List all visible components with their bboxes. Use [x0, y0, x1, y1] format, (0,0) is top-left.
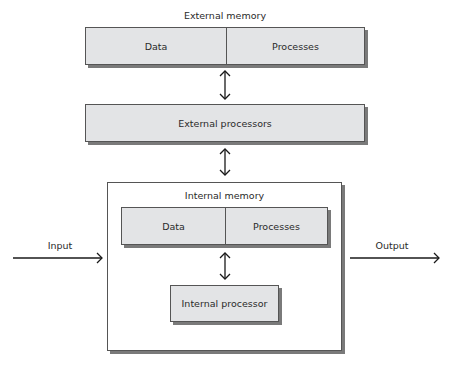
internal-memory-data-cell: Data: [122, 208, 225, 244]
double-arrow-icon-processors-to-internal: [219, 148, 231, 176]
double-arrow-icon-memory-to-processors: [219, 70, 231, 100]
internal-memory-processes-cell: Processes: [226, 208, 327, 244]
output-label: Output: [362, 240, 422, 251]
input-arrow-icon: [13, 252, 105, 264]
external-memory-data-label: Data: [145, 41, 168, 52]
external-memory-data-cell: Data: [86, 28, 226, 64]
input-label: Input: [30, 240, 90, 251]
double-arrow-icon-memory-to-internal-processor: [219, 252, 231, 280]
internal-processor-cell: Internal processor: [171, 286, 278, 321]
internal-processor-label: Internal processor: [182, 298, 268, 309]
output-arrow-icon: [350, 252, 442, 264]
external-processors-label: External processors: [178, 118, 272, 129]
internal-memory-processes-label: Processes: [253, 221, 300, 232]
external-memory-processes-label: Processes: [272, 41, 319, 52]
internal-memory-title: Internal memory: [121, 190, 328, 201]
external-processors-cell: External processors: [86, 105, 364, 141]
internal-memory-data-label: Data: [162, 221, 185, 232]
external-processors-box: External processors: [85, 104, 365, 142]
external-memory-processes-cell: Processes: [227, 28, 364, 64]
internal-processor-box: Internal processor: [170, 285, 279, 322]
external-memory-title: External memory: [85, 10, 365, 21]
external-memory-box: Data Processes: [85, 27, 365, 65]
internal-memory-box: Data Processes: [121, 207, 328, 245]
